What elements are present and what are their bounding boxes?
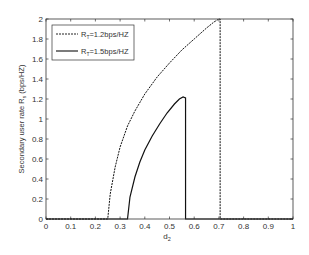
x-tick-label: 0 bbox=[44, 222, 49, 231]
x-tick-label: 0.6 bbox=[189, 222, 201, 231]
series-line-2 bbox=[46, 97, 293, 219]
x-tick-label: 0.9 bbox=[263, 222, 275, 231]
y-tick-label: 0.6 bbox=[32, 155, 44, 164]
y-tick-label: 0.4 bbox=[32, 175, 44, 184]
x-tick-label: 0.5 bbox=[164, 222, 176, 231]
x-tick-label: 0.2 bbox=[90, 222, 102, 231]
x-tick-label: 0.3 bbox=[115, 222, 127, 231]
y-tick-label: 1 bbox=[39, 115, 44, 124]
x-tick-label: 0.7 bbox=[213, 222, 225, 231]
y-tick-label: 2 bbox=[39, 15, 44, 24]
y-axis-label: Secondary user rate Rs (bps/HZ) bbox=[17, 64, 27, 173]
y-tick-label: 0.2 bbox=[32, 195, 44, 204]
x-tick-label: 1 bbox=[291, 222, 296, 231]
x-tick-label: 0.8 bbox=[238, 222, 250, 231]
legend: RT=1.2bps/HZ RT=1.5bps/HZ bbox=[52, 25, 134, 60]
chart: 00.10.20.30.40.50.60.70.80.9100.20.40.60… bbox=[0, 0, 309, 255]
y-tick-label: 1.2 bbox=[32, 95, 44, 104]
y-tick-label: 1.4 bbox=[32, 75, 44, 84]
y-tick-label: 0.8 bbox=[32, 135, 44, 144]
y-tick-label: 1.8 bbox=[32, 35, 44, 44]
x-axis-label: d2 bbox=[163, 232, 171, 242]
x-tick-label: 0.4 bbox=[139, 222, 151, 231]
y-tick-label: 1.6 bbox=[32, 55, 44, 64]
x-tick-label: 0.1 bbox=[65, 222, 77, 231]
y-tick-label: 0 bbox=[39, 215, 44, 224]
